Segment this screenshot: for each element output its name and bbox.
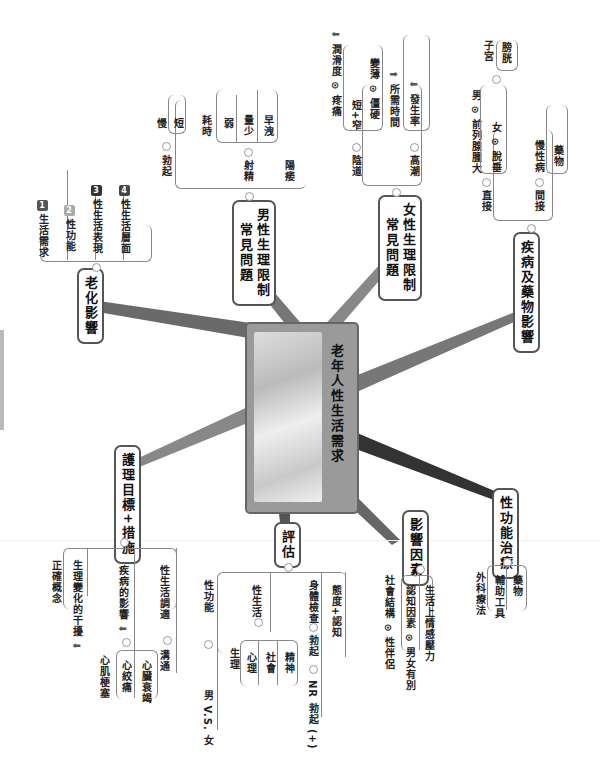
assess-psychological: 心理 [245, 652, 256, 674]
female-vagina: 陰道 [350, 155, 361, 177]
collapse-toggle[interactable] [309, 665, 318, 674]
central-topic-title: 老年人性生活需求 [327, 344, 346, 464]
female-orgasm-rate: ⬇ 發生率 [408, 80, 419, 127]
female-thin-text: 變薄 [368, 58, 379, 80]
female-stiff-text: 僵硬 [368, 98, 379, 120]
disease-chronic: 慢性病 [533, 140, 544, 173]
collapse-toggle[interactable] [120, 538, 129, 547]
collapse-toggle[interactable] [163, 636, 172, 645]
aging-item-2[interactable]: 2性功能 [64, 205, 76, 252]
aging-item-4-text: 性生活層面 [120, 199, 131, 254]
collapse-toggle[interactable] [416, 565, 425, 574]
care-intervene-text: 生理變化的干擾 [71, 560, 82, 637]
treatment-aids: 輔助工具 [493, 575, 504, 619]
collapse-toggle[interactable] [410, 143, 419, 152]
collapse-toggle[interactable] [244, 148, 253, 157]
care-communicate: 溝通 [158, 650, 169, 672]
assess-sexfunc: 性功能 [202, 580, 213, 613]
connector [87, 548, 88, 596]
female-orgasm-time: ⬆ 所需時間 [388, 70, 399, 128]
female-short-narrow: 短+窄 [350, 100, 361, 131]
female-orgasm-time-text: 所需時間 [388, 84, 399, 128]
treatment-drugs: 藥物 [511, 575, 522, 597]
care-hf: 心臟衰竭 [140, 660, 151, 704]
disease-female-item: 脫垂 [490, 151, 501, 173]
central-topic[interactable]: 老年人性生活需求 [245, 322, 359, 514]
male-ejac-low: 量少 [242, 115, 253, 137]
collapse-toggle[interactable] [535, 178, 544, 187]
male-erection-slow: 慢 [155, 118, 166, 129]
aging-item-3[interactable]: 3性生活表現 [91, 185, 103, 254]
topic-assessment[interactable]: 評估 [274, 522, 301, 568]
disease-indirect: 間接 [533, 190, 544, 212]
collapse-toggle[interactable] [482, 178, 491, 187]
collapse-toggle[interactable] [527, 224, 536, 233]
connector [236, 95, 237, 142]
female-orgasm-rate-text: 發生率 [408, 94, 419, 127]
arrow-down-icon: ⬇ [330, 30, 341, 39]
arrow-down-icon: ⬇ [408, 80, 419, 89]
connector [217, 640, 218, 730]
assess-spiritual: 精神 [283, 652, 294, 674]
female-lubrication: ⬇ 潤滑度 ⊙ 疼痛 [330, 30, 341, 117]
care-intervene: 生理變化的干擾 ⬇ [71, 560, 82, 651]
connector [176, 548, 177, 673]
disease-uterus: 子宮 [482, 40, 493, 62]
male-ejac-time: 耗時 [200, 115, 211, 137]
aging-item-3-text: 性生活表現 [92, 199, 103, 254]
assess-social: 社會 [264, 652, 275, 674]
aging-item-4[interactable]: 4性生活層面 [119, 185, 131, 254]
male-ejac-early: 早洩 [262, 115, 273, 137]
topic-disease-drugs[interactable]: 疾病及藥物影響 [513, 232, 540, 353]
connector [277, 640, 278, 685]
male-ejac-weak: 弱 [222, 118, 233, 129]
collapse-toggle[interactable] [284, 563, 293, 572]
disease-drugs: 藥物 [552, 145, 563, 167]
topic-female-line1: 女性生理限制 [402, 203, 417, 293]
scrollbar[interactable] [0, 330, 4, 430]
disease-female: 女 ⊙ 脫垂 [490, 122, 501, 173]
number-badge-1: 1 [37, 200, 48, 211]
connector [258, 640, 259, 685]
connector [257, 90, 258, 142]
collapse-toggle[interactable] [162, 142, 171, 151]
female-thin-stiff: 變薄 ⊙ 僵硬 [368, 58, 379, 120]
arrow-up-icon: ⬆ [388, 70, 399, 79]
topic-aging[interactable]: 老化影響 [77, 268, 104, 344]
care-disease-text: 疾病的影響 [117, 565, 128, 620]
topic-care-goals[interactable]: 護理目標+措施 [114, 445, 141, 564]
connector [345, 572, 346, 657]
assess-male-vs-female: 男 V.S. 女 [202, 690, 213, 746]
collapse-toggle[interactable] [122, 638, 131, 647]
collapse-toggle[interactable] [392, 188, 401, 197]
factor-gender-cognitive: 認知因素 ⊙ 男女有別 [404, 585, 415, 691]
factor-partner-social: 社會結構 ⊙ 性伴侶 [383, 575, 394, 670]
connector [270, 572, 271, 632]
care-mi: 心肌梗塞 [98, 655, 109, 699]
aging-item-2-text: 性功能 [65, 219, 76, 252]
collapse-toggle[interactable] [254, 618, 263, 627]
collapse-toggle[interactable] [92, 263, 101, 272]
connector [506, 565, 507, 610]
female-pain-text: 疼痛 [330, 95, 341, 117]
female-lubrication-text: 潤滑度 [330, 44, 341, 77]
collapse-toggle[interactable] [204, 640, 213, 649]
care-disease: 疾病的影響 ⬇ [117, 565, 128, 634]
collapse-toggle[interactable] [309, 623, 318, 632]
male-erection: 勃起 [160, 155, 171, 177]
aging-item-1-text: 生活需求 [38, 214, 49, 258]
aging-item-1[interactable]: 1生活需求 [37, 200, 49, 258]
factor-stress: 生活上情感壓力 [423, 585, 434, 662]
collapse-toggle[interactable] [245, 192, 254, 201]
assess-attitude: 態度+認知 [330, 585, 341, 638]
male-impotence: 陽痿 [283, 160, 294, 182]
collapse-toggle[interactable] [492, 75, 501, 84]
male-ejaculation: 射精 [242, 160, 253, 182]
collapse-toggle[interactable] [352, 143, 361, 152]
topic-male-limits[interactable]: 男性生理限制 常見問題 [232, 200, 276, 306]
care-alt: 性生活調適 [158, 565, 169, 620]
disease-female-text: 女 [490, 122, 501, 133]
factor-gender: 男女有別 [404, 647, 415, 691]
treatment-surgery: 外科療法 [474, 572, 485, 616]
topic-female-limits[interactable]: 女性生理限制 常見問題 [378, 195, 422, 301]
